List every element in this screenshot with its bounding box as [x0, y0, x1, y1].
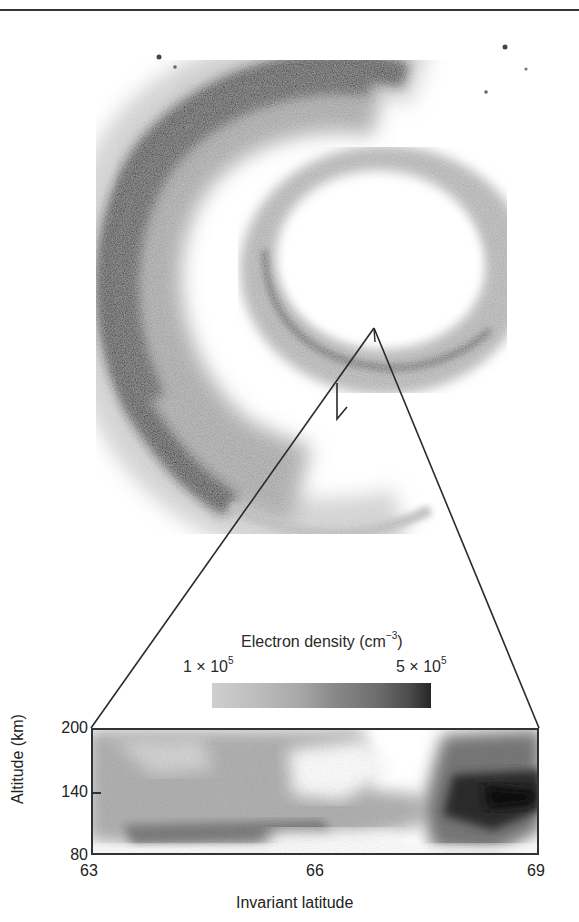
- star: [157, 55, 162, 60]
- x-tick-63: 63: [80, 862, 98, 880]
- radar-beam-tick: [374, 328, 375, 342]
- density-heatmap: [93, 730, 539, 855]
- y-tick-200: 200: [44, 719, 88, 737]
- colorbar-max-label: 5 × 105: [396, 657, 447, 676]
- y-tick-140: 140: [44, 783, 88, 801]
- y-axis-label: Altitude (km): [9, 780, 27, 804]
- electron-density-plot: [91, 728, 539, 855]
- auroral-oval-image: [0, 0, 579, 730]
- x-tick-66: 66: [306, 862, 324, 880]
- colorbar: [212, 683, 431, 708]
- x-axis-label: Invariant latitude: [236, 894, 353, 912]
- x-tick-69: 69: [527, 862, 545, 880]
- y-tick-140-mark: [93, 792, 101, 794]
- colorbar-min-label: 1 × 105: [183, 657, 234, 676]
- colorbar-title: Electron density (cm−3): [241, 632, 403, 651]
